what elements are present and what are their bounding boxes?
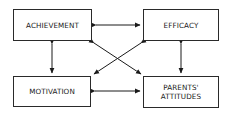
node-label: PARENTS' ATTITUDES bbox=[161, 83, 201, 101]
node-label: MOTIVATION bbox=[29, 87, 75, 96]
node-motivation: MOTIVATION bbox=[13, 76, 91, 107]
node-label: ACHIEVEMENT bbox=[26, 21, 79, 30]
node-label: EFFICACY bbox=[164, 21, 199, 30]
node-efficacy: EFFICACY bbox=[143, 9, 219, 41]
node-achievement: ACHIEVEMENT bbox=[13, 9, 92, 41]
node-parents-attitudes: PARENTS' ATTITUDES bbox=[143, 76, 219, 108]
